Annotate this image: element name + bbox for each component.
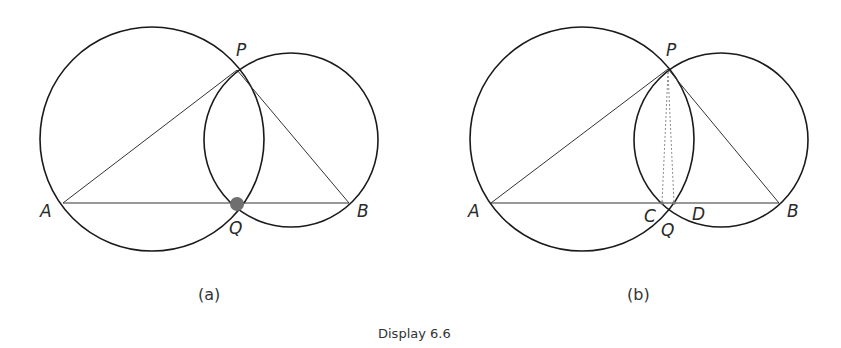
small-circle-b: [634, 53, 808, 227]
segment-ap-b: [491, 69, 668, 203]
label-b-b: B: [787, 201, 799, 221]
point-q-dot: [230, 197, 244, 211]
diagram-a: A B P Q (a): [39, 27, 378, 304]
dotted-pd: [668, 72, 674, 203]
label-p-b: P: [666, 40, 677, 60]
label-a-a: A: [39, 201, 52, 221]
diagram-b: A B P C D Q (b): [467, 27, 808, 304]
figure-canvas: A B P Q (a) A B P C D Q (b) Display 6.6: [0, 0, 841, 348]
label-p-a: P: [236, 40, 247, 60]
point-d-dot: [672, 201, 676, 205]
label-sub-a: (a): [198, 285, 220, 304]
point-c-dot: [660, 201, 664, 205]
label-c-b: C: [644, 206, 656, 226]
label-b-a: B: [357, 201, 369, 221]
label-q-a: Q: [229, 218, 242, 238]
large-circle-b: [470, 27, 694, 251]
dotted-pc: [662, 72, 668, 203]
segment-pb-a: [237, 70, 349, 203]
label-d-b: D: [692, 204, 705, 224]
small-circle-a: [204, 53, 378, 227]
label-a-b: A: [467, 201, 480, 221]
label-sub-b: (b): [627, 285, 650, 304]
segment-ap-a: [63, 70, 237, 203]
figure-caption: Display 6.6: [378, 326, 451, 341]
label-q-b: Q: [661, 220, 674, 240]
